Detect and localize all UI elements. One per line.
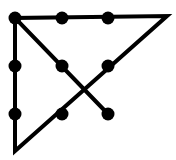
dot-7	[9, 108, 22, 121]
dot-4	[9, 60, 22, 73]
solution-path	[15, 16, 167, 151]
dot-9	[102, 108, 115, 121]
nine-dots-puzzle-diagram	[0, 0, 176, 160]
dot-8	[56, 108, 69, 121]
dot-5	[56, 60, 69, 73]
dot-1	[9, 12, 22, 25]
dot-6	[102, 60, 115, 73]
dot-2	[56, 12, 69, 25]
diagram-svg	[0, 0, 176, 160]
dot-3	[102, 12, 115, 25]
